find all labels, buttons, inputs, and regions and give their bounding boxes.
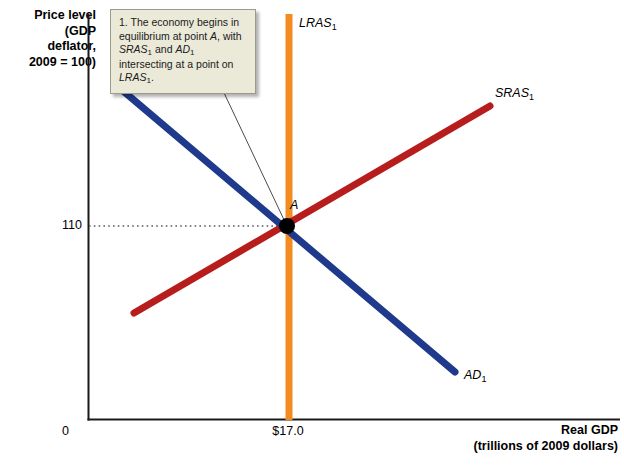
callout-text-3: and: [152, 43, 175, 55]
equilibrium-point-a-marker: [279, 218, 295, 234]
lras1-label-subscript: 1: [332, 22, 337, 32]
ad1-curve-label: AD1: [464, 368, 486, 382]
callout-italic-lras: LRAS: [119, 71, 146, 83]
callout-sras-subscript: 1: [148, 48, 152, 57]
sras1-label-text: SRAS: [495, 86, 529, 100]
callout-lras-subscript: 1: [146, 76, 150, 85]
lras1-label-text: LRAS: [299, 16, 332, 30]
callout-text-5: .: [151, 71, 154, 83]
lras1-curve-label: LRAS1: [299, 16, 337, 30]
callout-annotation-1: 1. The economy begins in equilibrium at …: [110, 9, 256, 94]
callout-text-4: intersecting at a point on: [119, 58, 233, 70]
plot-area: [0, 0, 624, 471]
sras1-curve-label: SRAS1: [495, 86, 534, 100]
callout-italic-ad: AD: [175, 43, 190, 55]
ad1-label-text: AD: [464, 368, 481, 382]
aggregate-demand-supply-figure: Price level (GDP deflator, 2009 = 100) R…: [0, 0, 624, 471]
sras1-curve: [134, 106, 490, 313]
callout-text-2: , with: [217, 30, 242, 42]
callout-italic-sras: SRAS: [119, 43, 148, 55]
equilibrium-point-a-label: A: [290, 198, 298, 212]
ad1-label-subscript: 1: [481, 374, 486, 384]
sras1-label-subscript: 1: [529, 92, 534, 102]
callout-ad-subscript: 1: [190, 48, 194, 57]
callout-number: 1.: [119, 16, 128, 28]
